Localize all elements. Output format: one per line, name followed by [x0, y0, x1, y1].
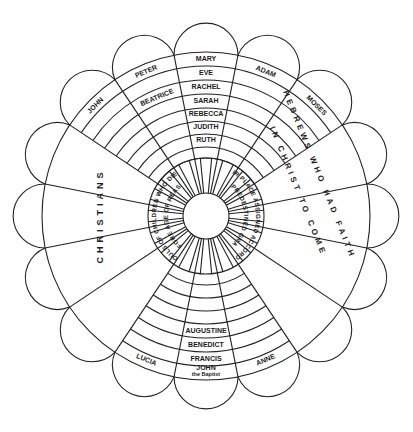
inner-spoke [217, 236, 233, 267]
sector-divider [45, 220, 183, 248]
hebrews-label-line2: IN CHRIST TO COME [268, 125, 328, 257]
rose-diagram: JOHNPETERADAMMOSESBEATRICEMARYEVERACHELS… [0, 0, 413, 432]
scallop [367, 184, 399, 248]
scallop [297, 307, 352, 362]
inner-spoke [179, 236, 195, 267]
center-column-name-mary: MARY [196, 55, 217, 62]
bottom-center-name-benedict: BENEDICT [188, 341, 225, 348]
center-column-name-eve: EVE [199, 69, 213, 76]
bottom-center-name-augustine: AUGUSTINE [185, 327, 227, 334]
bottom-tier-ring [146, 306, 266, 324]
rose-svg: JOHNPETERADAMMOSESBEATRICEMARYEVERACHELS… [0, 0, 413, 432]
sector-divider [225, 229, 342, 307]
center-column-name-ruth: RUTH [196, 136, 215, 143]
scallop [174, 23, 238, 55]
bottom-column-label-anne: ANNE [255, 352, 276, 366]
sector-divider [70, 125, 187, 203]
inner-spoke [179, 165, 195, 196]
bottom-tier-ring [153, 295, 259, 311]
sector-divider [70, 229, 187, 307]
top-tier-ring [149, 147, 264, 178]
scallop [60, 307, 115, 362]
center-column-name-judith: JUDITH [193, 123, 218, 130]
scallop [13, 184, 45, 248]
center-circle [183, 193, 229, 239]
bottom-tier-ring [168, 273, 245, 285]
inner-left-line1-text: SOULS OF CHILDREN WHO DIED [0, 0, 179, 262]
scallop [174, 377, 238, 409]
top-column-label-moses: MOSES [305, 94, 328, 117]
center-column-name-rachel: RACHEL [191, 83, 221, 90]
bottom-column-sublabel: the Baptist [192, 371, 221, 377]
center-column-name-rebecca: REBECCA [189, 110, 224, 117]
top-column-label-john: JOHN [86, 96, 105, 115]
scallop [60, 70, 115, 125]
christians-label: CHRISTIANS [95, 168, 105, 263]
sector-divider [219, 235, 297, 352]
center-column-name-sarah: SARAH [194, 97, 219, 104]
bottom-tier-ring [160, 284, 251, 298]
bottom-center-name-francis: FRANCIS [190, 355, 221, 362]
top-column-label-peter: PETER [134, 64, 158, 79]
inner-spoke [217, 165, 233, 196]
sector-divider [115, 235, 193, 352]
bottom-column-label-john: JOHN [196, 364, 215, 371]
